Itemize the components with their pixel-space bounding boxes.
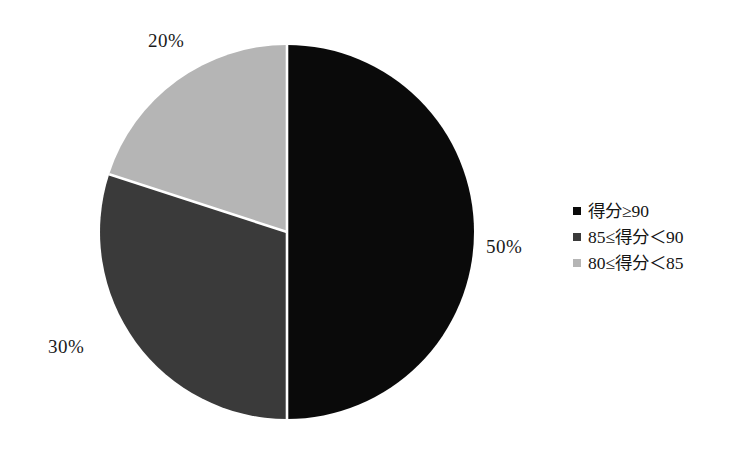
legend-label-score-80-to-85: 80≤得分＜85: [588, 253, 684, 273]
legend-item-score-80-to-85[interactable]: 80≤得分＜85: [573, 250, 684, 276]
pie-slice-score-ge-90[interactable]: [287, 45, 474, 419]
legend: 得分≥90 85≤得分＜90 80≤得分＜85: [573, 198, 684, 276]
pie-chart-figure: 50% 30% 20% 得分≥90 85≤得分＜90 80≤得分＜85: [0, 0, 753, 460]
legend-swatch-icon-score-80-to-85: [573, 259, 581, 267]
legend-swatch-icon-score-85-to-90: [573, 233, 581, 241]
pie-svg: [99, 44, 475, 420]
legend-label-score-ge-90: 得分≥90: [588, 201, 649, 221]
slice-label-score-80-to-85: 20%: [148, 30, 184, 52]
legend-item-score-ge-90[interactable]: 得分≥90: [573, 198, 684, 224]
legend-swatch-icon-score-ge-90: [573, 207, 581, 215]
slice-label-score-85-to-90: 30%: [48, 336, 84, 358]
legend-item-score-85-to-90[interactable]: 85≤得分＜90: [573, 224, 684, 250]
legend-label-score-85-to-90: 85≤得分＜90: [588, 227, 684, 247]
pie-chart-graphic: [99, 44, 475, 420]
slice-label-score-ge-90: 50%: [486, 236, 522, 258]
